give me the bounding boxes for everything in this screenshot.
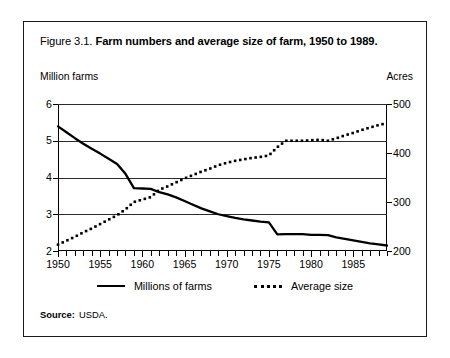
y-axis-right-tick-label: 300 — [393, 197, 411, 208]
data-series-layer — [58, 104, 387, 251]
x-axis-minor-tick — [387, 251, 388, 256]
series-dot — [285, 139, 288, 142]
series-dot — [180, 179, 183, 182]
x-axis-minor-tick — [134, 251, 135, 256]
series-dot — [149, 196, 152, 199]
x-axis-minor-tick — [294, 251, 295, 256]
series-dot — [161, 187, 164, 190]
series-dot — [361, 128, 364, 131]
series-dot — [332, 138, 335, 141]
series-dot — [229, 161, 232, 164]
x-axis-major-tick — [311, 251, 312, 257]
series-dot — [351, 132, 354, 135]
series-dot — [239, 159, 242, 162]
x-axis-tick-label: 1970 — [215, 258, 239, 270]
series-dot — [199, 171, 202, 174]
x-axis-major-tick — [269, 251, 270, 257]
series-dot — [90, 228, 93, 231]
legend-item-millions-of-farms: Millions of farms — [97, 280, 212, 292]
x-axis-tick-label: 1960 — [131, 258, 155, 270]
series-dot — [219, 163, 222, 166]
series-dot — [71, 237, 74, 240]
x-axis-minor-tick — [201, 251, 202, 256]
x-axis-minor-tick — [379, 251, 380, 256]
series-dot — [269, 153, 272, 156]
x-axis-minor-tick — [328, 251, 329, 256]
x-axis-tick-label: 1985 — [341, 258, 365, 270]
chart-legend: Millions of farms Average size — [24, 280, 426, 292]
series-dot — [61, 241, 64, 244]
x-axis-minor-tick — [210, 251, 211, 256]
series-dot — [371, 126, 374, 129]
solid-line-swatch — [97, 285, 125, 287]
series-dot — [244, 158, 247, 161]
series-dot — [117, 213, 120, 216]
series-dot — [134, 200, 137, 203]
y-axis-right-tick-mark — [387, 104, 392, 105]
series-dot — [341, 135, 344, 138]
x-axis-minor-tick — [75, 251, 76, 256]
y-axis-left-tick-label: 4 — [46, 172, 52, 183]
figure-caption: Farm numbers and average size of farm, 1… — [95, 35, 377, 47]
y-axis-left-tick-label: 3 — [46, 209, 52, 220]
x-axis-major-tick — [58, 251, 59, 257]
series-dot — [185, 177, 188, 180]
plot-area: 23456 200300400500 195019551960196519701… — [58, 104, 387, 251]
x-axis-minor-tick — [345, 251, 346, 256]
x-axis-minor-tick — [244, 251, 245, 256]
series-dot — [157, 190, 160, 193]
series-dot — [356, 130, 359, 133]
y-axis-right-tick-mark — [387, 202, 392, 203]
series-dot — [321, 139, 324, 142]
x-axis-minor-tick — [303, 251, 304, 256]
figure-title: Figure 3.1. Farm numbers and average siz… — [40, 35, 377, 47]
series-dot — [153, 193, 156, 196]
x-axis-minor-tick — [277, 251, 278, 256]
series-dot — [281, 142, 284, 145]
y-axis-right-unit-label: Acres — [386, 71, 413, 82]
x-axis-tick-label: 1980 — [299, 258, 323, 270]
series-dot — [265, 155, 268, 158]
x-axis-minor-tick — [252, 251, 253, 256]
series-dot — [85, 230, 88, 233]
y-axis-right-tick-label: 500 — [393, 99, 411, 110]
x-axis-minor-tick — [117, 251, 118, 256]
series-dot — [273, 149, 276, 152]
series-dot — [171, 183, 174, 186]
source-label: Source: — [40, 309, 75, 320]
legend-label-millions-of-farms: Millions of farms — [134, 280, 212, 292]
series-dot — [94, 225, 97, 228]
series-dot — [295, 139, 298, 142]
series-dot — [327, 139, 330, 142]
x-axis-major-tick — [227, 251, 228, 257]
series-dot — [125, 207, 128, 210]
series-dot — [194, 173, 197, 176]
series-dot — [311, 139, 314, 142]
x-axis-minor-tick — [151, 251, 152, 256]
series-dot — [214, 165, 217, 168]
x-axis-minor-tick — [218, 251, 219, 256]
x-axis-tick-label: 1955 — [88, 258, 112, 270]
x-axis-minor-tick — [193, 251, 194, 256]
x-axis-major-tick — [353, 251, 354, 257]
series-dot — [346, 133, 349, 136]
x-axis-minor-tick — [92, 251, 93, 256]
x-axis-major-tick — [185, 251, 186, 257]
series-dot — [144, 198, 147, 201]
y-axis-right-tick-label: 200 — [393, 246, 411, 257]
series-dot — [166, 185, 169, 188]
x-axis-minor-tick — [362, 251, 363, 256]
dotted-line-swatch — [254, 285, 282, 288]
x-axis-minor-tick — [176, 251, 177, 256]
x-axis-minor-tick — [235, 251, 236, 256]
series-dot — [260, 156, 263, 159]
series-dot — [113, 216, 116, 219]
x-axis-minor-tick — [320, 251, 321, 256]
series-dot — [337, 137, 340, 140]
x-axis-tick-label: 1965 — [173, 258, 197, 270]
figure-box: Figure 3.1. Farm numbers and average siz… — [23, 21, 427, 337]
series-average-size — [57, 123, 384, 246]
source-value: USDA. — [79, 309, 108, 320]
x-axis-major-tick — [142, 251, 143, 257]
x-axis-minor-tick — [336, 251, 337, 256]
